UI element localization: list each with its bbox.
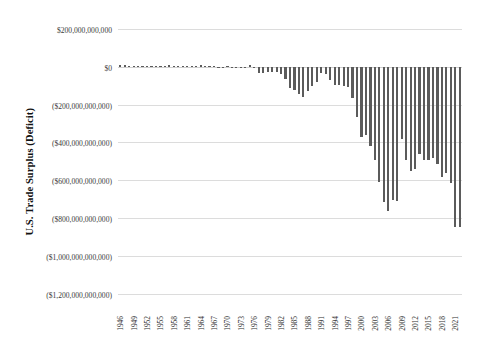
x-axis-tick-label: 1976 [250,316,259,331]
x-axis-tick-label: 2018 [438,316,447,331]
x-axis-tick-label: 1970 [223,316,232,331]
x-axis-tick-label: 2012 [411,316,420,331]
bar [186,66,188,67]
bar [164,66,166,67]
x-axis-tick-label: 1979 [264,316,273,331]
bar [311,67,313,86]
bar [405,67,407,161]
bar [271,67,273,72]
bar [240,67,242,68]
bar [124,65,126,67]
bar [217,67,219,68]
x-axis-tick-label: 1991 [317,316,326,331]
bar [414,67,416,169]
bar [289,67,291,88]
bar [338,67,340,85]
bar [320,67,322,73]
bar [141,66,143,67]
bar [244,67,246,68]
bar [423,67,425,160]
bar [222,67,224,68]
y-axis-tick-label: $0 [104,63,112,72]
y-axis-tick-label: ($200,000,000,000) [52,101,112,110]
x-axis-tick-label: 1967 [210,316,219,331]
x-axis-tick-label: 1988 [304,316,313,331]
bar [347,67,349,88]
bar [128,66,130,67]
bar [213,66,215,67]
bar [396,67,398,201]
bar [334,67,336,86]
bar [378,67,380,183]
x-axis-tick-label: 2000 [357,316,366,331]
bar [168,65,170,66]
bar [418,67,420,155]
bar [360,67,362,138]
bar [450,67,452,184]
y-axis-tick-label: $200,000,000,000 [57,25,112,34]
x-axis-tick-labels: 1946194919521955195819611964196719701973… [118,316,462,344]
x-axis-tick-label: 2003 [371,316,380,331]
bar [200,65,202,66]
x-axis-tick-label: 2009 [398,316,407,331]
bar [195,66,197,67]
y-axis-tick-label: ($800,000,000,000) [52,215,112,224]
bar [369,67,371,146]
bar [436,67,438,164]
y-axis-title: U.S. Trade Surplus (Deficit) [18,0,40,344]
bar [150,66,152,67]
x-axis-tick-label: 1952 [143,316,152,331]
bar [293,67,295,90]
bar [329,67,331,80]
bar [258,67,260,73]
bar [445,67,447,173]
bar [454,67,456,227]
x-axis-tick-label: 1973 [237,316,246,331]
bar [365,67,367,135]
bar [298,67,300,94]
x-axis-tick-label: 1994 [331,316,340,331]
bar [253,67,255,69]
bar [208,66,210,67]
bar [401,67,403,140]
y-axis-tick-label: ($600,000,000,000) [52,177,112,186]
bar [280,67,282,74]
bar [325,67,327,74]
x-axis-tick-label: 2021 [451,316,460,331]
bar [356,67,358,117]
x-axis-tick-label: 1982 [277,316,286,331]
x-axis-tick-label: 2006 [384,316,393,331]
bar-series [118,25,462,313]
bar [204,66,206,67]
bar [307,67,309,91]
bar [133,66,135,67]
bar [302,67,304,97]
bar [159,66,161,67]
bar [231,67,233,68]
bar [146,66,148,67]
bar [392,67,394,201]
bar [226,66,228,67]
bar [459,67,461,228]
x-axis-tick-label: 1949 [130,316,139,331]
bar [182,66,184,67]
bar [432,67,434,158]
bar [191,66,193,67]
bar [387,67,389,211]
bar [383,67,385,202]
bar [316,67,318,82]
y-axis-tick-label: ($1,200,000,000,000) [46,291,112,300]
x-axis-tick-label: 1958 [170,316,179,331]
bar [284,67,286,80]
y-axis-tick-label: ($1,000,000,000,000) [46,253,112,262]
bar [343,67,345,87]
bar [262,67,264,73]
bar [155,66,157,67]
bar [235,67,237,68]
y-axis-title-label: U.S. Trade Surplus (Deficit) [24,108,35,236]
bar [427,67,429,160]
bar [441,67,443,177]
bar [351,67,353,98]
bar [276,67,278,72]
bar [249,65,251,67]
